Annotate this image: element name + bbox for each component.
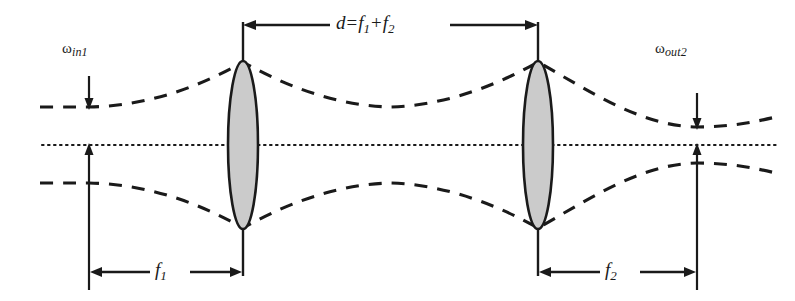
- omega-symbol-out: ω: [655, 40, 665, 56]
- label-omega-in1: ωin1: [62, 40, 88, 58]
- waist-out-measure-arrowhead: [693, 143, 702, 155]
- focal1-subscript: 1: [160, 268, 167, 283]
- optics-diagram-figure: ωin1 ωout2 d=f1+f2 f1 f2: [0, 0, 795, 301]
- dimension-d-left-arrowhead: [243, 20, 256, 30]
- label-omega-out2: ωout2: [655, 40, 687, 58]
- separation-plus: +: [370, 12, 383, 33]
- beam-envelope-upper: [40, 62, 780, 127]
- dimension-f1-right-arrowhead: [230, 267, 242, 277]
- dimension-f2-right-arrowhead: [684, 267, 696, 277]
- separation-term2-subscript: 2: [388, 21, 395, 36]
- label-lens-separation: d=f1+f2: [336, 13, 395, 35]
- label-focal-length-2: f2: [605, 260, 617, 282]
- lens2-body: [523, 61, 553, 229]
- label-focal-length-1: f1: [155, 260, 167, 282]
- omega-subscript-out: out2: [665, 45, 687, 59]
- separation-lhs: d: [336, 12, 346, 33]
- lens1-body: [228, 61, 258, 229]
- dimension-f2-left-arrowhead: [539, 267, 551, 277]
- dimension-f1-left-arrowhead: [90, 267, 102, 277]
- dimension-d-right-arrowhead: [525, 20, 538, 30]
- omega-symbol-in: ω: [62, 40, 72, 56]
- separation-equals: =: [346, 12, 359, 33]
- focal2-subscript: 2: [610, 268, 617, 283]
- beam-envelope-lower: [40, 163, 780, 228]
- omega-subscript-in: in1: [72, 45, 88, 59]
